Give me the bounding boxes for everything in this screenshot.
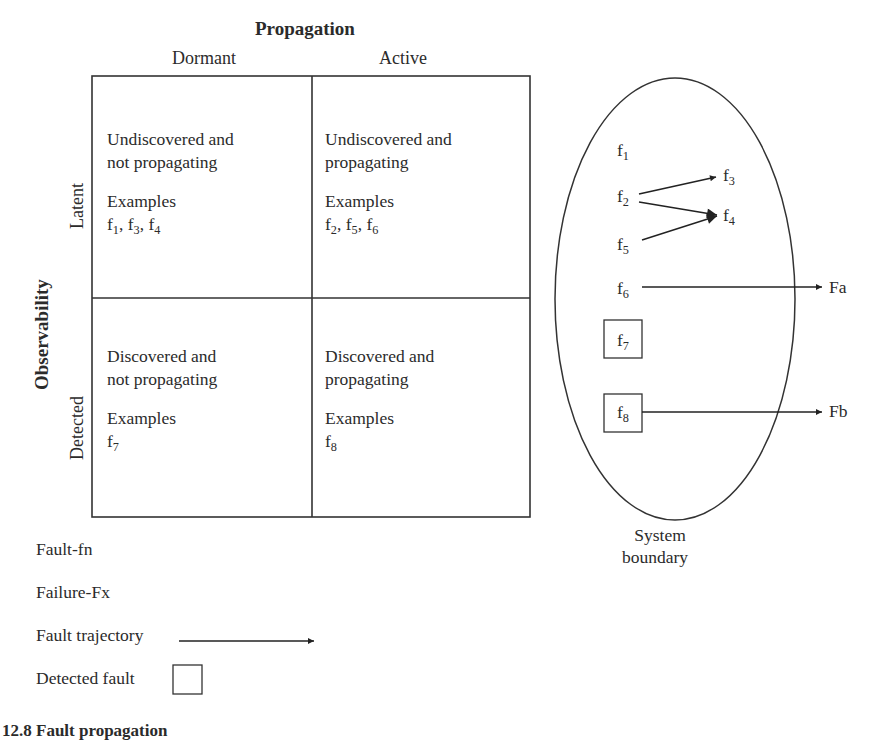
failure-node-Fa: Fa — [829, 277, 847, 298]
legend-detected-box — [173, 665, 202, 694]
system-boundary-ellipse — [555, 78, 795, 520]
fault-node-f8: f8 — [617, 402, 629, 423]
cell-detected-dormant: Discovered and not propagating Examples … — [107, 345, 217, 453]
trajectory-f2-f4 — [639, 202, 717, 215]
failure-node-Fb: Fb — [829, 401, 847, 422]
fault-node-f4: f4 — [723, 205, 735, 226]
fault-node-f3: f3 — [723, 165, 735, 186]
examples-list: f1, f3, f4 — [107, 213, 234, 236]
cell-latent-dormant: Undiscovered and not propagating Example… — [107, 128, 234, 236]
cell-detected-active: Discovered and propagating Examples f8 — [325, 345, 434, 453]
fault-node-f6: f6 — [617, 278, 629, 299]
examples-list: f8 — [325, 430, 434, 453]
legend-fault: Fault-fn — [36, 539, 92, 560]
fault-node-f7: f7 — [617, 330, 629, 351]
trajectory-f5-f4 — [642, 216, 717, 240]
legend-detected: Detected fault — [36, 668, 135, 689]
cell-latent-active: Undiscovered and propagating Examples f2… — [325, 128, 452, 236]
legend-trajectory: Fault trajectory — [36, 625, 143, 646]
fault-node-f2: f2 — [617, 186, 629, 207]
examples-list: f7 — [107, 430, 217, 453]
legend-failure: Failure-Fx — [36, 582, 110, 603]
fault-node-f1: f1 — [617, 140, 629, 161]
examples-list: f2, f5, f6 — [325, 213, 452, 236]
fault-node-f5: f5 — [617, 234, 629, 255]
trajectory-f2-f3 — [639, 177, 716, 194]
figure-caption: 12.8 Fault propagation — [2, 721, 167, 741]
system-boundary-label: System boundary — [632, 524, 688, 568]
